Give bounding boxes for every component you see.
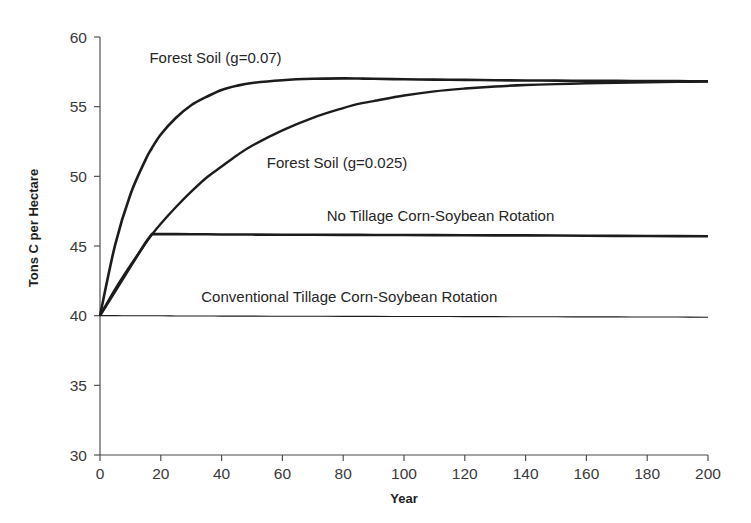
x-tick-label: 160 [573,465,599,482]
x-tick-label: 100 [391,465,417,482]
x-tick-label: 0 [96,465,105,482]
y-tick-label: 45 [70,238,87,255]
series-label-3: Conventional Tillage Corn-Soybean Rotati… [201,288,497,305]
series-label-0: Forest Soil (g=0.07) [149,49,281,66]
y-tick-label: 35 [70,377,87,394]
x-tick-label: 60 [274,465,292,482]
series-label-2: No Tillage Corn-Soybean Rotation [327,207,555,224]
x-tick-label: 120 [452,465,478,482]
x-tick-label: 180 [634,465,660,482]
chart-svg: 3035404550556002040608010012014016018020… [0,0,751,523]
y-tick-label: 40 [70,307,88,324]
y-tick-label: 30 [70,447,88,464]
series-label-1: Forest Soil (g=0.025) [267,154,408,171]
x-tick-label: 200 [695,465,721,482]
y-tick-label: 60 [70,29,88,46]
y-tick-label: 55 [70,98,87,115]
x-tick-label: 40 [213,465,231,482]
x-tick-label: 20 [152,465,170,482]
x-tick-label: 140 [513,465,539,482]
chart-figure: 3035404550556002040608010012014016018020… [0,0,751,523]
y-tick-label: 50 [70,168,88,185]
x-tick-label: 80 [335,465,353,482]
y-axis-title: Tons C per Hectare [26,169,41,287]
x-axis-title: Year [390,491,417,506]
